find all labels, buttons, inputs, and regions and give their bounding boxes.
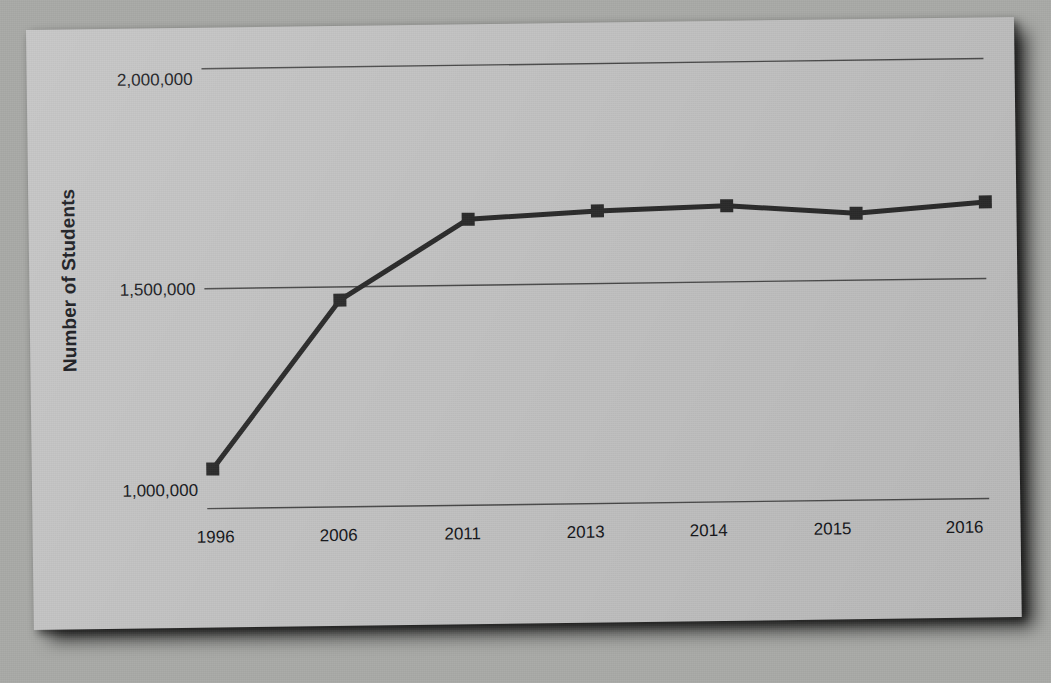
data-point-2016 xyxy=(979,195,992,208)
gridlines xyxy=(202,58,990,508)
gridline-1500000 xyxy=(204,278,986,288)
data-point-2011 xyxy=(462,213,475,226)
gridline-2000000 xyxy=(202,58,984,68)
data-point-1996 xyxy=(206,462,219,475)
chart-panel: Number of Students 2,000,000 1,500,000 1… xyxy=(26,17,1022,630)
chart-scene: Number of Students 2,000,000 1,500,000 1… xyxy=(0,0,1051,683)
plot-area xyxy=(26,17,1022,630)
series-line xyxy=(209,202,988,469)
data-point-2015 xyxy=(850,207,863,220)
data-point-2013 xyxy=(591,204,604,217)
gridline-1000000 xyxy=(207,498,989,508)
data-point-2006 xyxy=(333,294,346,307)
series-markers xyxy=(203,195,995,475)
data-point-2014 xyxy=(720,199,733,212)
